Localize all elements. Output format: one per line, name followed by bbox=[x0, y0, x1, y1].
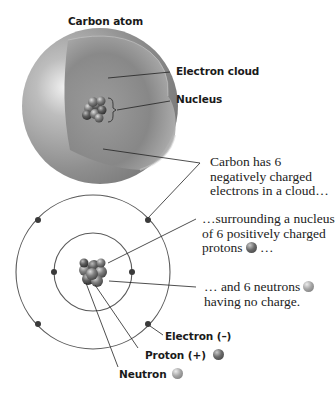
neutron-ball-icon bbox=[172, 368, 183, 379]
electron-dot bbox=[129, 269, 135, 275]
nucleus-label: Nucleus bbox=[176, 93, 222, 105]
proton-ball-icon bbox=[246, 242, 257, 253]
caption-line: … and 6 neutrons bbox=[204, 280, 314, 295]
electron-dot bbox=[35, 217, 41, 223]
caption-text: … bbox=[260, 240, 274, 255]
neutrons-caption-leader bbox=[109, 281, 196, 287]
caption-line: of 6 positively charged bbox=[202, 227, 335, 242]
electron-dot bbox=[51, 269, 57, 275]
caption-line: Carbon has 6 bbox=[210, 155, 329, 170]
neutron-legend-label: Neutron bbox=[119, 368, 167, 380]
diagram-title: Carbon atom bbox=[68, 15, 143, 27]
caption-line: electrons in a cloud… bbox=[210, 184, 329, 199]
caption-line: having no charge. bbox=[204, 295, 314, 310]
proton-legend: Proton (+) bbox=[145, 349, 224, 361]
electron-legend-leader bbox=[150, 326, 163, 335]
proton-ball-icon bbox=[213, 349, 224, 360]
electron-dot bbox=[35, 321, 41, 327]
proton-legend-leader bbox=[95, 285, 138, 348]
caption-text: protons bbox=[202, 240, 243, 255]
protons-caption-leader bbox=[108, 219, 196, 263]
electron-dot bbox=[145, 217, 151, 223]
protons-caption: …surrounding a nucleus of 6 positively c… bbox=[202, 212, 335, 256]
caption-line: negatively charged bbox=[210, 170, 329, 185]
electron-legend-label: Electron (–) bbox=[165, 330, 231, 342]
caption-line: protons … bbox=[202, 241, 335, 256]
electrons-caption: Carbon has 6 negatively charged electron… bbox=[210, 155, 329, 199]
bohr-nucleus bbox=[79, 259, 107, 288]
neutron-legend: Neutron bbox=[119, 368, 183, 380]
neutron-ball-icon bbox=[303, 281, 314, 292]
proton-legend-label: Proton (+) bbox=[145, 349, 206, 361]
caption-text: … and 6 neutrons bbox=[204, 279, 300, 294]
electron-cloud-label: Electron cloud bbox=[176, 65, 259, 77]
neutrons-caption: … and 6 neutrons having no charge. bbox=[204, 280, 314, 309]
caption-line: …surrounding a nucleus bbox=[202, 212, 335, 227]
